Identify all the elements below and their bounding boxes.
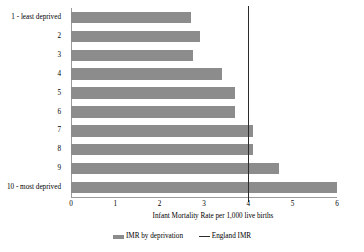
- legend-item-imr-by-deprivation: IMR by deprivation: [113, 232, 183, 240]
- y-axis-tick-label: 10 - most deprived: [0, 178, 61, 197]
- legend-label-england-imr: England IMR: [212, 233, 251, 241]
- x-axis-title-text: Infant Mortality Rate per 1,000 live bir…: [153, 212, 274, 220]
- y-axis-labels: 1 - least deprived2345678910 - most depr…: [0, 8, 66, 197]
- bar-row: [71, 159, 337, 178]
- x-axis-tick-label: 6: [327, 199, 347, 209]
- y-axis-tick-label: 2: [0, 27, 61, 46]
- x-axis-line: [71, 197, 337, 198]
- bar: [71, 106, 235, 117]
- chart-container: 1 - least deprived2345678910 - most depr…: [0, 0, 364, 252]
- bar-row: [71, 65, 337, 84]
- bar: [71, 87, 235, 98]
- bar-row: [71, 27, 337, 46]
- bar-row: [71, 140, 337, 159]
- x-axis-tick-label: 4: [238, 199, 258, 209]
- x-axis-tick-label: 5: [283, 199, 303, 209]
- bar-row: [71, 178, 337, 197]
- bar: [71, 12, 191, 23]
- bar: [71, 31, 200, 42]
- bar-row: [71, 103, 337, 122]
- legend-label-imr-by-deprivation: IMR by deprivation: [126, 233, 183, 241]
- bar-row: [71, 46, 337, 65]
- y-axis-tick-label: 9: [0, 159, 61, 178]
- plot-area: [71, 8, 337, 197]
- y-axis-tick-label: 1 - least deprived: [0, 8, 61, 27]
- bar-swatch-icon: [113, 235, 124, 239]
- x-axis-tick-label: 1: [105, 199, 125, 209]
- y-axis-tick-label: 4: [0, 65, 61, 84]
- y-axis-tick-label: 3: [0, 46, 61, 65]
- legend-item-england-imr: England IMR: [199, 232, 251, 240]
- bar: [71, 144, 253, 155]
- y-axis-tick-label: 7: [0, 121, 61, 140]
- bar: [71, 125, 253, 136]
- bar-row: [71, 121, 337, 140]
- bar: [71, 50, 193, 61]
- y-axis-tick-label: 5: [0, 84, 61, 103]
- line-swatch-icon: [199, 236, 210, 237]
- x-axis-tick-label: 3: [194, 199, 214, 209]
- chart-legend: IMR by deprivation England IMR: [0, 232, 364, 241]
- bar: [71, 182, 337, 193]
- y-axis-tick-label: 8: [0, 140, 61, 159]
- x-axis-tick-label: 0: [61, 199, 81, 209]
- bar-row: [71, 84, 337, 103]
- x-axis-title: Infant Mortality Rate per 1,000 live bir…: [0, 212, 364, 220]
- x-axis-tick-label: 2: [150, 199, 170, 209]
- bar: [71, 68, 222, 79]
- bar-row: [71, 8, 337, 27]
- england-imr-reference-line: [248, 6, 249, 202]
- y-axis-tick-label: 6: [0, 103, 61, 122]
